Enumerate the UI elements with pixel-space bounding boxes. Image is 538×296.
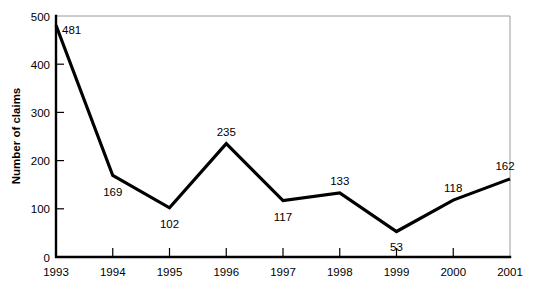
y-tick-200: 200: [31, 155, 50, 167]
y-tick-500: 500: [31, 11, 50, 23]
point-label-1998: 133: [330, 175, 349, 187]
x-axis-tick-labels: 1993 1994 1995 1996 1997 1998 1999 2000 …: [43, 266, 523, 278]
point-label-1997: 117: [274, 211, 292, 223]
point-label-1996: 235: [217, 126, 236, 138]
x-tick-1998: 1998: [327, 266, 353, 278]
y-axis-title: Number of claims: [10, 88, 22, 185]
y-tick-0: 0: [44, 252, 50, 264]
x-tick-1996: 1996: [213, 266, 239, 278]
y-axis-tick-labels: 500 400 300 200 100 0: [31, 11, 50, 264]
x-tick-2001: 2001: [497, 266, 523, 278]
series-line-number-of-claims: [56, 25, 510, 231]
line-chart: 500 400 300 200 100 0 1993 1994 1995 199…: [0, 0, 538, 296]
x-tick-1999: 1999: [384, 266, 410, 278]
x-tick-1994: 1994: [100, 266, 126, 278]
point-label-1995: 102: [160, 218, 179, 230]
x-tick-2000: 2000: [440, 266, 466, 278]
data-point-labels: 481 169 102 235 117 133 53 118 162: [62, 24, 515, 253]
point-label-2000: 118: [444, 182, 462, 194]
x-tick-1993: 1993: [43, 266, 69, 278]
x-tick-1995: 1995: [157, 266, 183, 278]
point-label-1993: 481: [62, 24, 81, 36]
y-tick-300: 300: [31, 107, 50, 119]
point-label-1999: 53: [390, 241, 403, 253]
y-tick-400: 400: [31, 59, 50, 71]
point-label-1994: 169: [103, 186, 122, 198]
chart-canvas: 500 400 300 200 100 0 1993 1994 1995 199…: [0, 0, 538, 296]
x-tick-1997: 1997: [270, 266, 296, 278]
y-tick-100: 100: [31, 203, 50, 215]
point-label-2001: 162: [495, 160, 514, 172]
